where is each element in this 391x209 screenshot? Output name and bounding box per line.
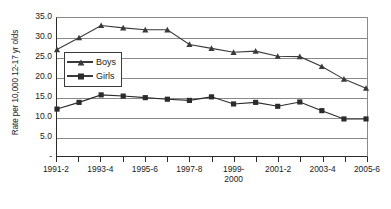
- x-tick: [123, 157, 124, 162]
- y-tick-label: 30.0: [18, 32, 52, 41]
- series-girls: [54, 92, 368, 121]
- data-point-marker: [341, 116, 346, 121]
- data-point-marker: [363, 116, 368, 121]
- plot-area: [56, 17, 368, 157]
- x-tick: [234, 157, 235, 162]
- data-point-marker: [231, 101, 236, 106]
- y-axis-tick-labels: -5.010.015.020.025.030.035.0: [18, 0, 52, 209]
- x-tick: [78, 157, 79, 162]
- line-chart: Rate per 10,000 12-17 yr olds -5.010.015…: [0, 0, 391, 209]
- x-tick: [367, 157, 368, 162]
- x-tick: [278, 157, 279, 162]
- data-point-marker: [76, 100, 81, 105]
- x-tick: [145, 157, 146, 162]
- data-point-marker: [54, 46, 60, 52]
- x-tick: [256, 157, 257, 162]
- legend-marker-triangle-icon: [67, 56, 93, 68]
- x-axis-ticks: [56, 157, 368, 163]
- data-point-marker: [209, 94, 214, 99]
- y-tick-label: 35.0: [18, 12, 52, 21]
- y-tick-label: 10.0: [18, 112, 52, 121]
- x-tick: [345, 157, 346, 162]
- legend-label-boys: Boys: [93, 57, 116, 67]
- x-tick-label: 2005-6: [337, 164, 391, 174]
- x-tick: [189, 157, 190, 162]
- data-point-marker: [121, 94, 126, 99]
- x-tick: [212, 157, 213, 162]
- series-layer: [57, 18, 367, 156]
- y-tick-label: 5.0: [18, 132, 52, 141]
- chart-legend: Boys Girls: [64, 52, 122, 87]
- data-point-marker: [363, 85, 369, 91]
- legend-marker-square-icon: [67, 70, 93, 82]
- y-tick-label: 25.0: [18, 52, 52, 61]
- x-tick: [100, 157, 101, 162]
- y-tick-label: 15.0: [18, 92, 52, 101]
- data-point-marker: [297, 99, 302, 104]
- data-point-marker: [253, 100, 258, 105]
- x-tick: [167, 157, 168, 162]
- data-point-marker: [186, 41, 192, 47]
- x-axis-tick-labels: 1991-21993-41995-61997-81999-20002001-22…: [56, 164, 368, 204]
- data-point-marker: [341, 76, 347, 82]
- data-point-marker: [54, 107, 59, 112]
- x-tick: [323, 157, 324, 162]
- data-point-marker: [165, 97, 170, 102]
- data-point-marker: [187, 98, 192, 103]
- legend-item-girls: Girls: [67, 69, 116, 83]
- data-point-marker: [99, 92, 104, 97]
- data-point-marker: [319, 108, 324, 113]
- data-point-marker: [275, 104, 280, 109]
- legend-label-girls: Girls: [93, 71, 115, 81]
- data-point-marker: [143, 95, 148, 100]
- x-tick: [56, 157, 57, 162]
- y-tick-label: -: [18, 152, 52, 161]
- x-tick: [300, 157, 301, 162]
- y-tick-label: 20.0: [18, 72, 52, 81]
- legend-item-boys: Boys: [67, 55, 116, 69]
- data-point-marker: [319, 63, 325, 69]
- data-point-marker: [76, 35, 82, 41]
